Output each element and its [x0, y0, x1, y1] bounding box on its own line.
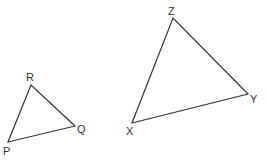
vertex-label-q: Q — [77, 123, 86, 135]
vertex-label-y: Y — [250, 93, 258, 105]
vertex-label-z: Z — [168, 5, 175, 17]
triangle-pqr — [8, 85, 75, 142]
vertex-label-r: R — [26, 71, 34, 83]
vertex-label-x: X — [126, 125, 134, 137]
triangle-xyz — [132, 18, 248, 123]
vertex-label-p: P — [3, 145, 10, 157]
diagram-canvas: P Q R X Y Z — [0, 0, 267, 161]
